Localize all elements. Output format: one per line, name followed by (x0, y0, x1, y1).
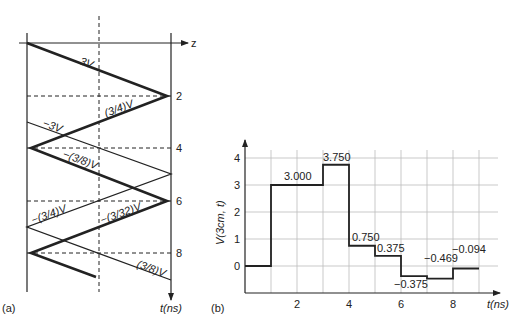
figure: 2 4 6 8 z t(ns) (a) 3V (3/4)V −3V −(3/8)… (0, 0, 517, 325)
wave-label-3-8v: (3/8)V (135, 258, 169, 280)
wave-label-3-4v: (3/4)V (103, 97, 137, 119)
wave-label-neg-3v: −3V (41, 117, 65, 136)
time-tick-6: 6 (176, 195, 182, 207)
y-tick-2: 2 (234, 206, 240, 218)
y-tick-4: 4 (234, 152, 240, 164)
x-tick-8: 8 (450, 298, 456, 310)
value-label-neg-0094: −0.094 (452, 243, 486, 255)
time-tick-4: 4 (176, 142, 182, 154)
x-tick-2: 2 (294, 298, 300, 310)
x-tick-4: 4 (346, 298, 352, 310)
y-axis-label: V(3cm, t) (214, 200, 226, 245)
step-chart: 4 3 2 1 0 2 4 6 8 t(ns) V(3cm, t) (b) 3.… (211, 140, 509, 314)
panel-a-label: (a) (2, 302, 15, 314)
wave-label-neg-3-32v: −(3/32)V (99, 199, 145, 225)
bounce-diagram: 2 4 6 8 z t(ns) (a) 3V (3/4)V −3V −(3/8)… (2, 16, 197, 314)
x-tick-6: 6 (398, 298, 404, 310)
value-label-neg-0375: −0.375 (394, 278, 428, 290)
value-label-0375: 0.375 (377, 242, 405, 254)
value-label-3000: 3.000 (284, 170, 312, 182)
time-tick-2: 2 (176, 90, 182, 102)
wave-label-neg-3-4v: −(3/4)V (30, 202, 70, 226)
z-axis-label: z (191, 37, 197, 49)
grid (245, 150, 498, 293)
time-tick-8: 8 (176, 247, 182, 259)
y-tick-1: 1 (234, 233, 240, 245)
value-label-3750: 3.750 (323, 151, 351, 163)
y-tick-3: 3 (234, 179, 240, 191)
t-axis-label: t(ns) (160, 302, 182, 314)
panel-b-label: (b) (211, 302, 224, 314)
x-axis-label: t(ns) (487, 298, 509, 310)
value-label-0750: 0.750 (352, 231, 380, 243)
y-tick-0: 0 (234, 260, 240, 272)
